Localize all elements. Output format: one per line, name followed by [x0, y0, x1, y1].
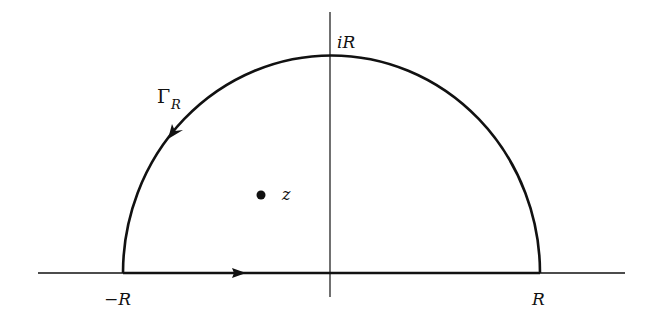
- label-gamma: Γ: [157, 85, 170, 107]
- label-R: R: [531, 289, 545, 309]
- semicircle-arc: [123, 55, 540, 273]
- arrow-down-left-icon: [168, 124, 183, 139]
- arrow-right-icon: [232, 268, 246, 278]
- contour-diagram: iR −R R z Γ R: [0, 0, 649, 328]
- label-minus-R: −R: [104, 289, 131, 309]
- point-z: [257, 191, 266, 200]
- label-iR: iR: [337, 32, 355, 52]
- label-gamma-subscript: R: [170, 97, 181, 112]
- label-z: z: [281, 185, 291, 204]
